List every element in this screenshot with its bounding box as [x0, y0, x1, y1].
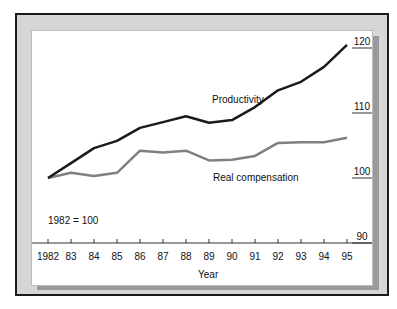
- x-tick-label: 86: [134, 251, 146, 262]
- real-compensation-line: [48, 138, 347, 178]
- x-tick-label: 83: [65, 251, 77, 262]
- productivity-line: [48, 45, 347, 178]
- x-tick-label: 91: [249, 251, 261, 262]
- y-tick-label: 100: [354, 166, 371, 177]
- x-tick-label: 90: [226, 251, 238, 262]
- y-axis: 90100110120: [352, 36, 372, 243]
- x-tick-label: 1982: [37, 251, 60, 262]
- x-tick-label: 94: [318, 251, 330, 262]
- x-tick-label: 84: [88, 251, 100, 262]
- x-axis: 198283848586878889909192939495: [37, 239, 353, 262]
- y-tick-label: 120: [354, 36, 371, 47]
- x-tick-label: 95: [341, 251, 353, 262]
- line-chart: 90100110120 1982838485868788899091929394…: [0, 0, 397, 309]
- x-axis-title: Year: [198, 269, 219, 280]
- x-tick-label: 85: [111, 251, 123, 262]
- x-tick-label: 89: [203, 251, 215, 262]
- y-tick-label: 90: [356, 231, 368, 242]
- x-tick-label: 88: [180, 251, 192, 262]
- real-compensation-label: Real compensation: [213, 172, 299, 183]
- y-tick-label: 110: [354, 101, 370, 112]
- base-year-note: 1982 = 100: [48, 215, 99, 226]
- productivity-label: Productivity: [212, 94, 264, 105]
- x-tick-label: 93: [295, 251, 307, 262]
- x-tick-label: 87: [157, 251, 169, 262]
- x-tick-label: 92: [272, 251, 284, 262]
